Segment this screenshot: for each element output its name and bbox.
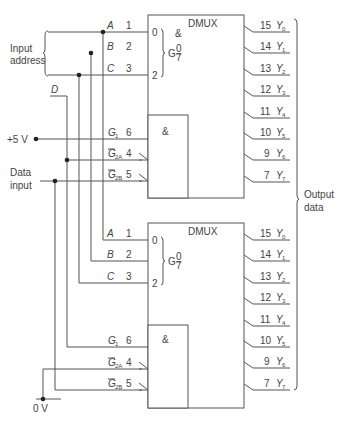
svg-text:C: C [107,271,115,282]
svg-text:B: B [107,41,114,52]
svg-text:6: 6 [126,127,132,138]
svg-text:0: 0 [152,27,158,38]
g-range-label: G [168,48,176,59]
svg-text:B: B [107,249,114,260]
svg-text:7: 7 [176,52,182,63]
svg-text:C: C [107,63,115,74]
data-input-label: Data input [10,167,32,191]
svg-text:7: 7 [264,378,270,389]
dmux-top: DMUX & G 0 7 0 2 & A 1 B 2 C 3 G 1 6 G 2… [106,15,244,198]
svg-text:4: 4 [126,148,132,159]
svg-text:6: 6 [282,362,286,368]
output-y5: 10Y5 [244,335,290,347]
output-y4: 11Y4 [244,314,290,326]
svg-text:5: 5 [126,169,132,180]
svg-text:9: 9 [264,356,270,367]
d-label: D [51,84,58,95]
svg-text:2: 2 [152,278,158,289]
svg-text:address: address [10,55,46,66]
svg-text:2: 2 [282,277,286,283]
svg-text:1: 1 [126,228,132,239]
svg-text:A: A [106,20,114,31]
svg-text:13: 13 [260,63,272,74]
svg-text:7: 7 [176,260,182,271]
svg-text:9: 9 [264,148,270,159]
svg-text:2B: 2B [115,175,122,181]
svg-text:3: 3 [126,271,132,282]
svg-text:10: 10 [260,335,272,346]
svg-text:11: 11 [260,314,271,325]
svg-text:2: 2 [126,249,132,260]
dmux-title: DMUX [188,18,218,29]
svg-text:7: 7 [282,176,286,182]
svg-text:5: 5 [282,341,286,347]
svg-text:2: 2 [152,70,158,81]
svg-text:14: 14 [260,41,272,52]
svg-text:15: 15 [260,228,272,239]
dmux-bottom-outputs: 15Y0 14Y1 13Y2 12Y3 11Y4 10Y5 9Y6 7Y7 [244,228,290,390]
svg-text:7: 7 [282,384,286,390]
svg-text:3: 3 [282,90,286,96]
output-y7: 7Y7 [244,170,290,182]
svg-text:6: 6 [126,335,132,346]
and-label: & [162,126,169,137]
output-y5: 10Y5 [244,127,290,139]
svg-text:14: 14 [260,249,272,260]
svg-text:0: 0 [282,26,286,32]
svg-text:3: 3 [126,63,132,74]
svg-text:Output: Output [304,189,334,200]
output-y1: 14Y1 [244,249,290,261]
svg-text:13: 13 [260,271,272,282]
svg-text:4: 4 [282,320,286,326]
output-y3: 12Y3 [244,292,290,304]
svg-text:10: 10 [260,127,272,138]
output-y0: 15Y0 [244,20,290,32]
svg-text:0: 0 [152,235,158,246]
svg-text:1: 1 [282,255,286,261]
svg-text:input: input [10,180,32,191]
output-y2: 13Y2 [244,63,290,75]
output-y6: 9Y6 [244,148,290,160]
svg-text:&: & [175,28,182,39]
svg-text:1: 1 [282,47,286,53]
output-y0: 15Y0 [244,228,290,240]
g-range-label: G [168,256,176,267]
svg-text:5: 5 [282,133,286,139]
output-y1: 14Y1 [244,41,290,53]
svg-text:2B: 2B [115,384,122,390]
svg-text:1: 1 [115,341,119,347]
zero-v-label: 0 V [33,403,48,414]
svg-text:5: 5 [126,378,132,389]
svg-text:1: 1 [115,133,119,139]
svg-text:3: 3 [282,298,286,304]
output-y3: 12Y3 [244,84,290,96]
output-y4: 11Y4 [244,106,290,118]
dmux-title: DMUX [188,226,218,237]
svg-text:12: 12 [260,292,272,303]
svg-text:1: 1 [126,20,132,31]
svg-text:Input: Input [10,43,32,54]
output-data-bracket: Output data [294,19,334,390]
svg-text:A: A [106,228,114,239]
svg-text:6: 6 [282,154,286,160]
svg-text:2A: 2A [115,154,122,160]
output-y7: 7Y7 [244,378,290,390]
svg-text:15: 15 [260,20,272,31]
svg-text:4: 4 [126,357,132,368]
and-label: & [162,334,169,345]
svg-text:2: 2 [282,69,286,75]
output-y6: 9Y6 [244,356,290,368]
output-y2: 13Y2 [244,271,290,283]
junction-dots [34,30,106,402]
dmux-top-outputs: 15Y0 14Y1 13Y2 12Y3 11Y4 10Y5 9Y6 7Y7 [244,20,290,182]
svg-text:4: 4 [282,112,286,118]
plus5v-label: +5 V [7,134,28,145]
svg-text:2: 2 [126,41,132,52]
svg-text:11: 11 [260,106,271,117]
svg-text:12: 12 [260,84,272,95]
svg-text:0: 0 [282,234,286,240]
svg-text:Data: Data [10,167,32,178]
dmux-bottom: DMUX G 0 7 0 2 & A 1 B 2 C 3 G 1 6 G 2A … [106,223,244,408]
svg-text:7: 7 [264,170,270,181]
dmux-circuit-diagram: Input address +5 V Data input D 0 V [0,0,344,423]
